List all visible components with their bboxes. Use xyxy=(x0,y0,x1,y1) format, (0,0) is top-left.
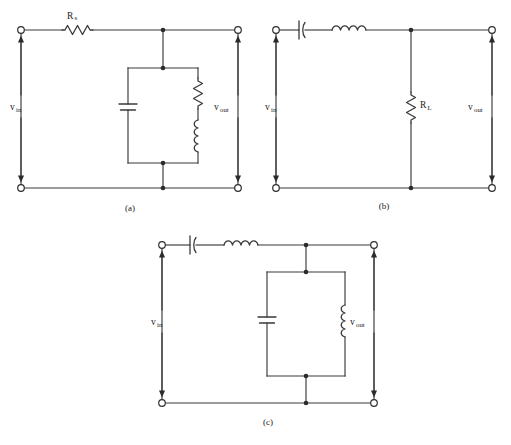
circuit-c-node-network-bottom xyxy=(304,374,309,379)
circuit-c-node-bottom xyxy=(304,401,309,406)
circuit-b-terminal-out-bottom[interactable] xyxy=(489,185,496,192)
circuit-b-vin-arrowhead-up xyxy=(273,36,279,43)
circuit-diagram-canvas: R s v in v out (a) xyxy=(0,0,511,445)
circuit-c-vout-label-sub: out xyxy=(356,321,365,328)
circuit-b-terminal-out-top[interactable] xyxy=(489,27,496,34)
circuit-b-load-resistor-symbol xyxy=(407,92,416,123)
circuit-a-terminal-out-bottom[interactable] xyxy=(235,185,242,192)
circuit-a-node-top xyxy=(161,28,166,33)
circuit-c-terminal-out-top[interactable] xyxy=(371,242,378,249)
circuit-a-vin-arrowhead-up xyxy=(18,36,24,43)
circuit-c-vout-label: v xyxy=(350,317,355,327)
circuit-a-vout-label: v xyxy=(214,102,219,112)
circuit-b-vout-label-sub: out xyxy=(474,106,483,113)
circuit-a-node-network-top xyxy=(161,66,166,71)
circuit-c-vout-arrowhead-up xyxy=(371,251,377,258)
circuit-c-tank-inductor-symbol xyxy=(341,305,345,337)
circuit-a-vout-arrowhead-up xyxy=(235,36,241,43)
circuit-c-terminal-in-bottom[interactable] xyxy=(159,400,166,407)
circuit-b-vin-label-sub: in xyxy=(271,106,277,113)
circuit-b-node-top xyxy=(409,28,414,33)
circuit-c-vout-arrowhead-down xyxy=(371,391,377,398)
circuit-b-vout-arrowhead-down xyxy=(489,176,495,183)
figure-root: R s v in v out (a) xyxy=(0,0,511,445)
circuit-b-node-bottom xyxy=(409,186,414,191)
circuit-a-node-network-bottom xyxy=(161,161,166,166)
circuit-b: R L v in v out (b) xyxy=(265,21,495,211)
circuit-c-vin-arrowhead-down xyxy=(159,391,165,398)
circuit-a-caption: (a) xyxy=(125,203,135,213)
circuit-c-caption: (c) xyxy=(263,417,273,427)
circuit-a-vin-label-sub: in xyxy=(16,106,22,113)
circuit-c: v in v out (c) xyxy=(151,236,377,427)
circuit-a: R s v in v out (a) xyxy=(10,11,241,213)
circuit-b-vin-label: v xyxy=(265,102,270,112)
circuit-a-shunt-resistor-symbol xyxy=(194,78,203,109)
circuit-a-vout-arrowhead-down xyxy=(235,176,241,183)
circuit-b-vout-label: v xyxy=(468,102,473,112)
circuit-c-vin-arrowhead-up xyxy=(159,251,165,258)
circuit-c-series-inductor-symbol xyxy=(224,241,258,245)
circuit-b-vin-arrowhead-down xyxy=(273,176,279,183)
circuit-c-vin-label-sub: in xyxy=(157,321,163,328)
circuit-a-terminal-in-bottom[interactable] xyxy=(18,185,25,192)
circuit-b-terminal-in-top[interactable] xyxy=(273,27,280,34)
circuit-a-terminal-in-top[interactable] xyxy=(18,27,25,34)
circuit-b-series-inductor-symbol xyxy=(332,26,366,30)
circuit-a-terminal-out-top[interactable] xyxy=(235,27,242,34)
circuit-a-node-bottom xyxy=(161,186,166,191)
circuit-c-node-top xyxy=(304,243,309,248)
circuit-c-terminal-in-top[interactable] xyxy=(159,242,166,249)
circuit-b-load-resistor-label-sub: L xyxy=(428,104,432,111)
circuit-a-series-resistor-symbol xyxy=(62,26,93,35)
circuit-a-vin-label: v xyxy=(10,102,15,112)
circuit-a-shunt-inductor-symbol xyxy=(194,120,198,152)
circuit-a-series-resistor-label-sub: s xyxy=(75,14,78,21)
circuit-a-vout-label-sub: out xyxy=(220,106,229,113)
circuit-c-terminal-out-bottom[interactable] xyxy=(371,400,378,407)
circuit-b-caption: (b) xyxy=(379,201,390,211)
circuit-b-terminal-in-bottom[interactable] xyxy=(273,185,280,192)
circuit-a-series-resistor-label: R xyxy=(67,11,74,21)
circuit-c-node-network-top xyxy=(304,270,309,275)
circuit-b-vout-arrowhead-up xyxy=(489,36,495,43)
circuit-a-vin-arrowhead-down xyxy=(18,176,24,183)
circuit-c-vin-label: v xyxy=(151,317,156,327)
circuit-b-load-resistor-label: R xyxy=(420,100,427,110)
